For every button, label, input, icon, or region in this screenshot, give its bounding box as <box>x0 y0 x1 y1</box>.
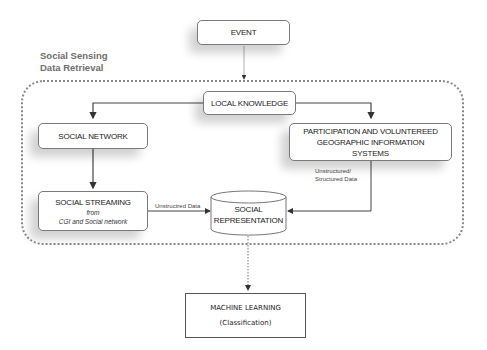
event-label: EVENT <box>231 27 257 38</box>
group-title-line2: Data Retrieval <box>40 62 108 74</box>
machine-learning-node: MACHINE LEARNING (Classification) <box>185 293 306 338</box>
local-knowledge-node: LOCAL KNOWLEDGE <box>203 91 296 115</box>
group-title-line1: Social Sensing <box>40 50 108 62</box>
social-representation-line1: SOCIAL <box>211 204 286 215</box>
social-streaming-node: SOCIAL STREAMING from CGI and Social net… <box>38 191 148 231</box>
social-representation-line2: REPRESENTATION <box>211 215 286 226</box>
vgi-line2: GEOGRAPHIC INFORMATION <box>317 137 424 148</box>
local-knowledge-label: LOCAL KNOWLEDGE <box>211 98 288 109</box>
edge-label-unstructured: Unstructred Data <box>155 202 200 210</box>
social-network-label: SOCIAL NETWORK <box>58 131 127 142</box>
machine-learning-sub: (Classification) <box>220 319 272 327</box>
machine-learning-label: MACHINE LEARNING <box>210 304 281 312</box>
group-title: Social Sensing Data Retrieval <box>40 50 108 74</box>
social-network-node: SOCIAL NETWORK <box>38 123 148 149</box>
vgi-node: PARTICIPATION AND VOLUNTEREED GEOGRAPHIC… <box>289 123 452 161</box>
edge-label-vgi-line2: Structured Data <box>315 175 357 183</box>
social-representation-node: SOCIAL REPRESENTATION <box>211 204 286 226</box>
edge-label-vgi: Unstructured/ Structured Data <box>315 167 357 183</box>
vgi-line1: PARTICIPATION AND VOLUNTEREED <box>303 126 438 137</box>
social-streaming-sub2: CGI and Social network <box>59 217 127 226</box>
edge-label-vgi-line1: Unstructured/ <box>315 167 357 175</box>
social-streaming-sub1: from <box>87 208 100 217</box>
event-node: EVENT <box>197 20 290 45</box>
vgi-line3: SYSTEMS <box>352 148 389 159</box>
social-streaming-label: SOCIAL STREAMING <box>55 197 131 208</box>
